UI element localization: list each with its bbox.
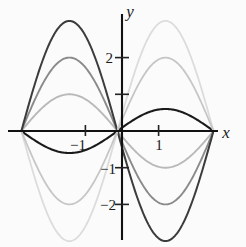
y-tick-label-neg2: −2	[100, 197, 116, 213]
y-axis-label: y	[124, 2, 134, 21]
y-tick-label-2: 2	[106, 50, 114, 66]
y-tick-label-neg1: −1	[100, 161, 116, 177]
x-tick-label-1: 1	[155, 137, 163, 153]
plot-canvas: −1 1 2 −1 −2 x y	[0, 0, 246, 247]
function-plot-figure: −1 1 2 −1 −2 x y	[0, 0, 246, 247]
x-tick-label-neg1: −1	[70, 137, 86, 153]
x-axis-label: x	[221, 123, 230, 142]
axis-label-layer: x y	[124, 2, 230, 142]
